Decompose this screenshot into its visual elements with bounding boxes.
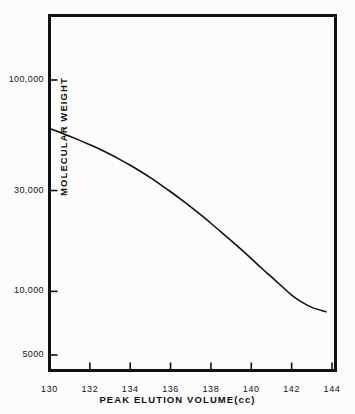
x-tick-label: 138 [203, 384, 220, 394]
x-tick-label: 130 [41, 384, 58, 394]
y-tick-label: 10,000 [14, 285, 44, 295]
x-tick-label: 142 [283, 384, 300, 394]
figure-container: 100,00030,00010,0005000 1301321341361381… [0, 0, 355, 414]
y-tick-label-wrap: 100,000 [0, 74, 44, 86]
x-tick-label: 136 [162, 384, 179, 394]
y-tick-label-wrap: 10,000 [0, 285, 44, 297]
y-tick-label: 30,000 [14, 185, 44, 195]
y-tick-label: 5000 [22, 349, 44, 359]
plot-frame [48, 14, 337, 372]
x-tick-label: 140 [243, 384, 260, 394]
x-tick-label: 134 [122, 384, 139, 394]
x-axis-title: PEAK ELUTION VOLUME(cc) [0, 394, 355, 405]
x-tick-label: 132 [81, 384, 98, 394]
y-tick-label-wrap: 5000 [0, 349, 44, 361]
y-axis-title: MOLECULAR WEIGHT [58, 77, 69, 196]
x-tick-label: 144 [324, 384, 341, 394]
y-tick-label-wrap: 30,000 [0, 185, 44, 197]
y-tick-label: 100,000 [9, 74, 44, 84]
